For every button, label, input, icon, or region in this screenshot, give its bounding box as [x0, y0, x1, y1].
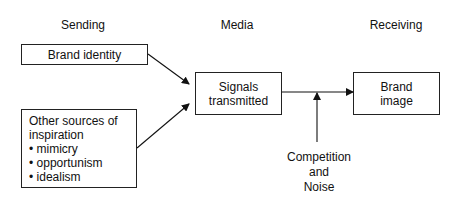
arrow-identity-to-signals: [148, 54, 189, 84]
connector-arrows: [0, 0, 456, 206]
arrow-sources-to-signals: [137, 104, 189, 148]
